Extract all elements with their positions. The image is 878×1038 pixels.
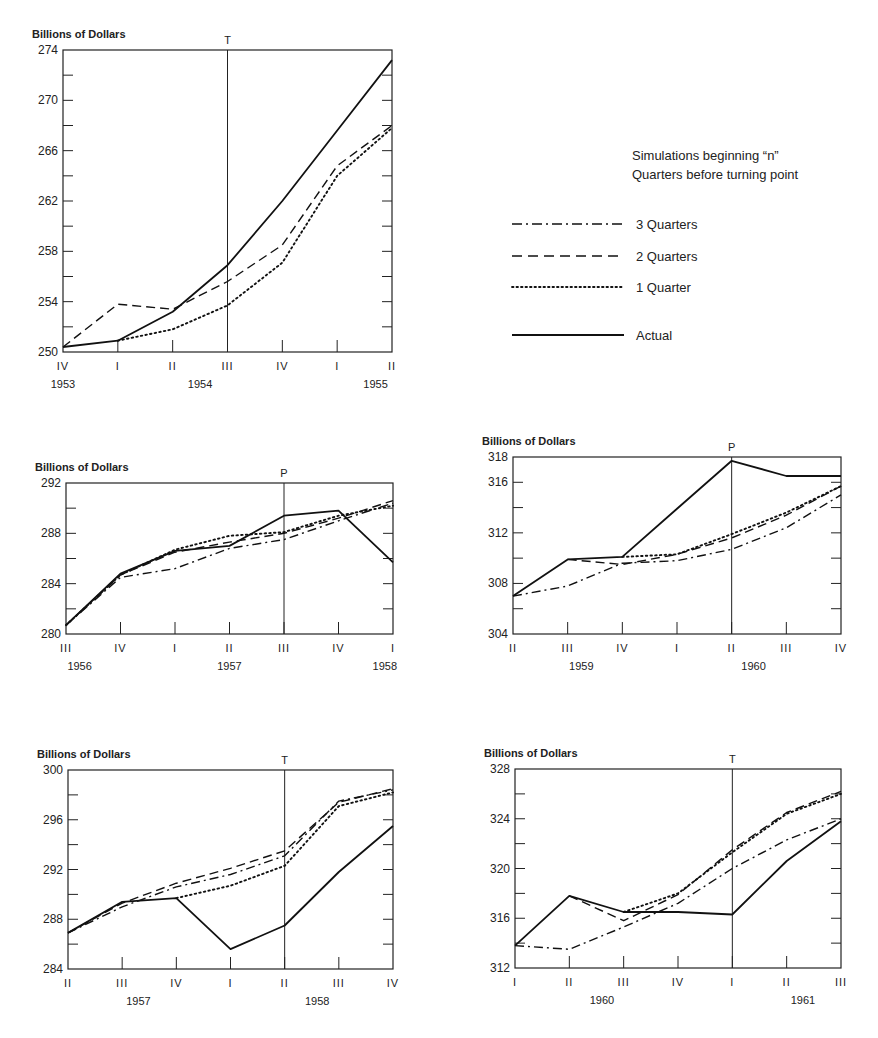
series-3-quarters	[515, 819, 841, 950]
y-axis-label: Billions of Dollars	[482, 435, 576, 447]
x-tick-label: IV	[332, 642, 344, 654]
legend: Simulations beginning “n” Quarters befor…	[512, 148, 799, 343]
y-tick-label: 262	[38, 194, 58, 208]
year-label: 1958	[373, 660, 397, 672]
year-label: 1956	[67, 660, 91, 672]
y-tick-label: 284	[41, 577, 61, 591]
chart-4: Billions of Dollars284288292296300IIIIII…	[37, 748, 399, 1007]
x-tick-label: I	[228, 977, 232, 989]
x-tick-label: II	[225, 642, 233, 654]
y-tick-label: 300	[43, 763, 63, 777]
y-tick-label: 296	[43, 813, 63, 827]
x-tick-label: IV	[276, 360, 288, 372]
chart-2: Billions of Dollars280284288292IIIIVIIII…	[35, 461, 397, 672]
x-tick-label: IV	[114, 642, 126, 654]
plot-frame	[66, 483, 393, 634]
turning-point-label: T	[729, 753, 736, 765]
x-tick-label: II	[509, 642, 517, 654]
y-axis-label: Billions of Dollars	[484, 747, 578, 759]
y-tick-label: 280	[41, 627, 61, 641]
year-label: 1960	[590, 994, 614, 1006]
y-tick-label: 270	[38, 93, 58, 107]
series-2-quarters	[68, 789, 393, 933]
x-tick-label: I	[391, 642, 395, 654]
x-tick-label: II	[783, 976, 791, 988]
series-2-quarters	[568, 486, 841, 564]
y-tick-label: 292	[41, 476, 61, 490]
year-label: 1955	[363, 378, 387, 390]
x-tick-label: II	[169, 360, 177, 372]
chart-5: Billions of Dollars312316320324328IIIIII…	[484, 747, 847, 1006]
y-axis-label: Billions of Dollars	[32, 28, 126, 40]
legend-label-2-quarters: 2 Quarters	[636, 249, 698, 264]
y-tick-label: 288	[43, 912, 63, 926]
x-tick-label: I	[173, 642, 177, 654]
x-tick-label: I	[116, 360, 120, 372]
x-tick-label: IV	[835, 642, 847, 654]
year-label: 1958	[305, 995, 329, 1007]
series-1-quarter	[66, 506, 393, 626]
y-tick-label: 320	[490, 862, 510, 876]
x-tick-label: II	[565, 976, 573, 988]
x-tick-label: IV	[170, 977, 182, 989]
y-tick-label: 250	[38, 345, 58, 359]
y-tick-label: 312	[488, 526, 508, 540]
x-tick-label: I	[335, 360, 339, 372]
turning-point-label: P	[728, 441, 735, 453]
turning-point-label: T	[224, 34, 231, 46]
x-tick-label: II	[281, 977, 289, 989]
legend-title-line-1: Simulations beginning “n”	[632, 148, 779, 163]
y-tick-label: 258	[38, 244, 58, 258]
series-3-quarters	[66, 503, 393, 625]
x-tick-label: III	[278, 642, 290, 654]
x-tick-label: III	[562, 642, 574, 654]
plot-frame	[515, 769, 841, 968]
series-actual	[68, 826, 393, 949]
y-tick-label: 266	[38, 144, 58, 158]
y-tick-label: 274	[38, 43, 58, 57]
turning-point-label: T	[281, 754, 288, 766]
y-tick-label: 318	[488, 450, 508, 464]
x-tick-label: III	[618, 976, 630, 988]
chart-1: Billions of Dollars250254258262266270274…	[32, 28, 396, 390]
x-tick-label: II	[728, 642, 736, 654]
chart-3: Billions of Dollars304308312316318IIIIII…	[482, 435, 847, 672]
figure: Billions of Dollars250254258262266270274…	[0, 0, 878, 1038]
legend-label-actual: Actual	[636, 328, 672, 343]
plot-frame	[513, 457, 841, 634]
year-label: 1954	[188, 378, 212, 390]
y-axis-label: Billions of Dollars	[35, 461, 129, 473]
x-tick-label: III	[780, 642, 792, 654]
y-tick-label: 254	[38, 295, 58, 309]
year-label: 1957	[126, 995, 150, 1007]
x-tick-label: III	[60, 642, 72, 654]
y-tick-label: 328	[490, 762, 510, 776]
turning-point-label: P	[280, 467, 287, 479]
series-actual	[513, 461, 841, 596]
series-actual	[66, 511, 393, 626]
series-2-quarters	[569, 791, 841, 920]
y-axis-label: Billions of Dollars	[37, 748, 131, 760]
legend-label-1-quarter: 1 Quarter	[636, 280, 692, 295]
x-tick-label: III	[835, 976, 847, 988]
year-label: 1953	[51, 378, 75, 390]
series-3-quarters	[68, 790, 393, 933]
y-tick-label: 288	[41, 526, 61, 540]
year-label: 1960	[741, 660, 765, 672]
x-tick-label: II	[64, 977, 72, 989]
legend-title-line-2: Quarters before turning point	[632, 167, 799, 182]
x-tick-label: II	[388, 360, 396, 372]
x-tick-label: III	[116, 977, 128, 989]
y-tick-label: 284	[43, 962, 63, 976]
x-tick-label: IV	[616, 642, 628, 654]
plot-frame	[68, 770, 393, 969]
series-actual	[515, 821, 841, 945]
x-tick-label: I	[513, 976, 517, 988]
x-tick-label: I	[730, 976, 734, 988]
x-tick-label: I	[675, 642, 679, 654]
x-tick-label: IV	[672, 976, 684, 988]
y-tick-label: 312	[490, 961, 510, 975]
x-tick-label: III	[333, 977, 345, 989]
y-tick-label: 308	[488, 576, 508, 590]
legend-label-3-quarters: 3 Quarters	[636, 217, 698, 232]
